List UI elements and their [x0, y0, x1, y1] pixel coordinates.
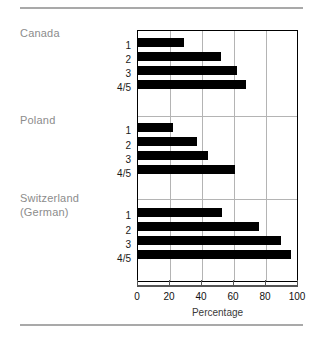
- group-label-switzerland-line2: (German): [20, 206, 69, 219]
- bar-chart: Canada Poland Switzerland (German) 1 2 3…: [0, 0, 321, 340]
- plot-area: [137, 30, 298, 282]
- x-axis-line: [137, 285, 298, 287]
- ytick-label-canada-3: 3: [91, 69, 131, 79]
- ytick-label-poland-2: 2: [91, 141, 131, 151]
- xtick-label-40: 40: [195, 291, 206, 302]
- ytick-label-switzerland-3: 3: [91, 240, 131, 250]
- xtick-label-100: 100: [289, 291, 306, 302]
- ytick-label-poland-3: 3: [91, 155, 131, 165]
- figure: Canada Poland Switzerland (German) 1 2 3…: [0, 0, 321, 340]
- ytick-label-poland-45: 4/5: [91, 169, 131, 179]
- ytick-label-canada-45: 4/5: [91, 83, 131, 93]
- ytick-label-canada-2: 2: [91, 55, 131, 65]
- ytick-label-switzerland-1: 1: [91, 211, 131, 221]
- bar-switzerland-1: [138, 208, 222, 217]
- bar-poland-3: [138, 151, 208, 160]
- ytick-label-poland-1: 1: [91, 126, 131, 136]
- ytick-label-canada-1: 1: [91, 41, 131, 51]
- bar-canada-2: [138, 52, 221, 61]
- bar-switzerland-45: [138, 250, 291, 259]
- xtick-40: [201, 280, 202, 286]
- bar-poland-45: [138, 165, 235, 174]
- bar-switzerland-3: [138, 236, 281, 245]
- bar-canada-1: [138, 38, 184, 47]
- xtick-20: [169, 280, 170, 286]
- bar-switzerland-2: [138, 222, 259, 231]
- bar-canada-45: [138, 80, 246, 89]
- group-separator-canada-poland: [138, 116, 297, 117]
- group-label-switzerland-line1: Switzerland: [20, 192, 79, 205]
- xtick-label-60: 60: [227, 291, 238, 302]
- bar-poland-2: [138, 137, 197, 146]
- xtick-0: [137, 280, 138, 286]
- xtick-label-80: 80: [259, 291, 270, 302]
- xtick-80: [265, 280, 266, 286]
- xtick-60: [233, 280, 234, 286]
- bar-poland-1: [138, 123, 173, 132]
- group-label-poland: Poland: [20, 114, 55, 127]
- group-label-canada: Canada: [20, 27, 60, 40]
- group-separator-poland-switzerland: [138, 199, 297, 200]
- xtick-label-20: 20: [163, 291, 174, 302]
- x-axis-title: Percentage: [137, 307, 298, 318]
- bar-canada-3: [138, 66, 237, 75]
- xtick-100: [297, 280, 298, 286]
- xtick-label-0: 0: [134, 291, 140, 302]
- ytick-label-switzerland-45: 4/5: [91, 254, 131, 264]
- ytick-label-switzerland-2: 2: [91, 226, 131, 236]
